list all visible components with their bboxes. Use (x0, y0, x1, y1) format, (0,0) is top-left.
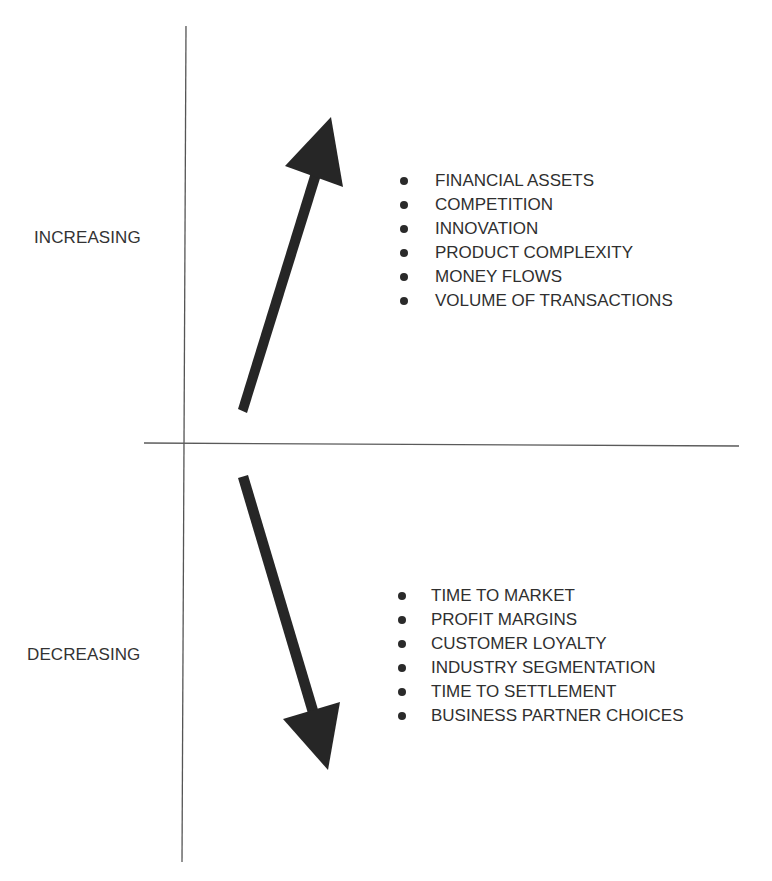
diagram-canvas: INCREASING DECREASING FINANCIAL ASSETS C… (0, 0, 772, 881)
increasing-factors-list: FINANCIAL ASSETS COMPETITION INNOVATION … (398, 169, 673, 313)
factor-label: CUSTOMER LOYALTY (431, 634, 607, 653)
bullet-icon (398, 640, 406, 648)
list-item: INDUSTRY SEGMENTATION (396, 656, 684, 680)
decreasing-factors-list: TIME TO MARKET PROFIT MARGINS CUSTOMER L… (396, 584, 684, 728)
list-item: COMPETITION (398, 193, 673, 217)
bullet-icon (398, 688, 406, 696)
list-item: TIME TO MARKET (396, 584, 684, 608)
factor-label: INNOVATION (435, 219, 538, 238)
list-item: TIME TO SETTLEMENT (396, 680, 684, 704)
list-item: PROFIT MARGINS (396, 608, 684, 632)
bullet-icon (398, 616, 406, 624)
bullet-icon (398, 592, 406, 600)
list-item: MONEY FLOWS (398, 265, 673, 289)
up-arrow-icon (238, 117, 343, 413)
factor-label: FINANCIAL ASSETS (435, 171, 594, 190)
decreasing-label: DECREASING (27, 645, 140, 665)
bullet-icon (400, 201, 408, 209)
factor-label: BUSINESS PARTNER CHOICES (431, 706, 684, 725)
bullet-icon (400, 225, 408, 233)
list-item: FINANCIAL ASSETS (398, 169, 673, 193)
horizontal-axis (144, 443, 739, 446)
bullet-icon (398, 712, 406, 720)
factor-label: TIME TO MARKET (431, 586, 575, 605)
list-item: BUSINESS PARTNER CHOICES (396, 704, 684, 728)
down-arrow-icon (238, 475, 340, 770)
factor-label: MONEY FLOWS (435, 267, 562, 286)
diagram-graphics (0, 0, 772, 881)
list-item: PRODUCT COMPLEXITY (398, 241, 673, 265)
vertical-axis (182, 26, 186, 862)
bullet-icon (400, 297, 408, 305)
list-item: INNOVATION (398, 217, 673, 241)
increasing-label: INCREASING (34, 228, 141, 248)
list-item: VOLUME OF TRANSACTIONS (398, 289, 673, 313)
factor-label: INDUSTRY SEGMENTATION (431, 658, 656, 677)
factor-label: TIME TO SETTLEMENT (431, 682, 616, 701)
bullet-icon (400, 177, 408, 185)
bullet-icon (400, 273, 408, 281)
bullet-icon (398, 664, 406, 672)
factor-label: PRODUCT COMPLEXITY (435, 243, 633, 262)
factor-label: PROFIT MARGINS (431, 610, 577, 629)
factor-label: VOLUME OF TRANSACTIONS (435, 291, 673, 310)
list-item: CUSTOMER LOYALTY (396, 632, 684, 656)
bullet-icon (400, 249, 408, 257)
factor-label: COMPETITION (435, 195, 553, 214)
